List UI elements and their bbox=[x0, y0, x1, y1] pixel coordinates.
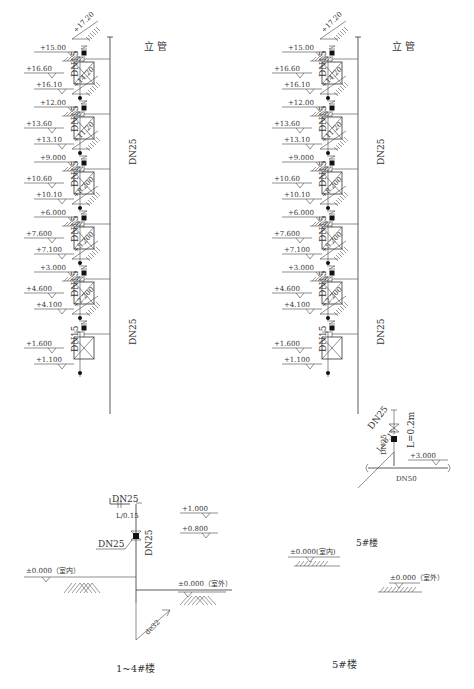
building-title: 1~4#楼 bbox=[116, 662, 155, 674]
lower-elevation: +7.100 bbox=[36, 246, 62, 254]
riser-label: 立 管 bbox=[392, 40, 415, 52]
floor-branch: +2.200DN15+1.600+1.100 bbox=[24, 285, 110, 377]
upper-elevation: +4.600 bbox=[26, 285, 52, 293]
upper-elevation: +13.60 bbox=[26, 120, 52, 128]
elevation-triangle-icon bbox=[306, 254, 314, 259]
left-base-assembly: DN25L/0.15DN25DN25+1.000+0.800±0.000（室内）… bbox=[24, 494, 232, 674]
valve-icon bbox=[329, 266, 335, 276]
upper-elevation: +7.600 bbox=[274, 230, 300, 238]
valve-icon bbox=[81, 321, 87, 331]
valve-icon bbox=[81, 156, 87, 166]
upper-elevation: +10.60 bbox=[26, 175, 52, 183]
elevation-triangle-icon bbox=[296, 238, 304, 243]
elevation-triangle-icon bbox=[58, 144, 66, 149]
elevation-triangle-icon bbox=[296, 293, 304, 298]
slab-elevation: +12.00 bbox=[40, 99, 66, 107]
pipe-end-icon bbox=[78, 151, 82, 155]
slab-elevation: +15.00 bbox=[40, 44, 66, 52]
pipe-end-icon bbox=[78, 261, 82, 265]
upper-elevation: +1.600 bbox=[274, 340, 300, 348]
elevation-triangle-icon bbox=[58, 364, 66, 369]
indoor-ground-label: ±0.000(室内) bbox=[290, 547, 336, 556]
slab-elevation: +3.000 bbox=[40, 264, 66, 272]
valve-icon bbox=[329, 156, 335, 166]
slab-elevation: +15.00 bbox=[288, 44, 314, 52]
upper-elevation: +16.60 bbox=[26, 65, 52, 73]
branch-dn-label: DN15 bbox=[318, 160, 328, 187]
pipe-end-icon bbox=[326, 206, 330, 210]
pipe-end-icon bbox=[326, 371, 330, 375]
branch-dn-label: DN15 bbox=[318, 325, 328, 352]
dn-label: DN25 bbox=[112, 494, 139, 504]
pipe-end-icon bbox=[78, 316, 82, 320]
elevation-triangle-icon bbox=[306, 144, 314, 149]
elevation-triangle-icon bbox=[296, 348, 304, 353]
branch-dn-label: DN15 bbox=[70, 50, 80, 77]
elevation-triangle-icon bbox=[306, 364, 314, 369]
lower-elevation: +16.10 bbox=[36, 81, 62, 89]
valve-icon bbox=[329, 211, 335, 221]
left-riser-system: 立 管DN25DN25+17.20DN15+16.60+16.10+15.00+… bbox=[24, 10, 167, 414]
elevation-triangle-icon bbox=[42, 577, 50, 582]
floor-branch: +2.200DN15+1.600+1.100 bbox=[272, 285, 358, 377]
upper-elevation: +13.60 bbox=[274, 120, 300, 128]
elevation-triangle-icon bbox=[306, 89, 314, 94]
pipe-end-icon bbox=[78, 371, 82, 375]
building-title: 5#楼 bbox=[332, 658, 357, 670]
upper-elevation: +10.60 bbox=[274, 175, 300, 183]
lower-elevation: +1.100 bbox=[284, 356, 310, 364]
valve-icon bbox=[329, 101, 335, 111]
vertical-dn-label: DN25 bbox=[144, 529, 154, 556]
floor-branch: +11.20DN15+10.60+10.10+9.000 bbox=[272, 120, 358, 212]
elevation-1: +1.000 bbox=[182, 505, 208, 513]
branch-dn-label: DN15 bbox=[318, 105, 328, 132]
lower-elevation: +13.10 bbox=[284, 136, 310, 144]
elevation-triangle-icon bbox=[306, 557, 314, 562]
elevation-triangle-icon bbox=[48, 128, 56, 133]
elevation-triangle-icon bbox=[202, 513, 210, 518]
elevation-triangle-icon bbox=[48, 293, 56, 298]
upper-elevation: +1.600 bbox=[26, 340, 52, 348]
floor-branch: +14.20DN15+13.60+13.10+12.00 bbox=[272, 65, 358, 157]
lower-elevation: +16.10 bbox=[284, 81, 310, 89]
elevation-triangle-icon bbox=[58, 254, 66, 259]
elevation-triangle-icon bbox=[296, 73, 304, 78]
lower-elevation: +4.100 bbox=[36, 301, 62, 309]
branch-dn-label: DN15 bbox=[70, 325, 80, 352]
branch-dn-label: DN15 bbox=[70, 215, 80, 242]
floor-branch: +14.20DN15+13.60+13.10+12.00 bbox=[24, 65, 110, 157]
valve-dn-label: DN25 bbox=[380, 434, 388, 455]
valve-dn-label: DN25 bbox=[98, 539, 125, 549]
slab-elevation: +12.00 bbox=[288, 99, 314, 107]
valve-elevation-tag: +17.20 bbox=[72, 10, 100, 41]
lower-elevation: +1.100 bbox=[36, 356, 62, 364]
riser-dn-label: DN25 bbox=[376, 138, 386, 165]
pipe-end-icon bbox=[326, 96, 330, 100]
outdoor-ground-label: ±0.000（室外） bbox=[390, 573, 444, 582]
riser-diagram: 立 管DN25DN25+17.20DN15+16.60+16.10+15.00+… bbox=[0, 0, 474, 689]
pipe-end-icon bbox=[78, 206, 82, 210]
elevation-triangle-icon bbox=[306, 199, 314, 204]
pipe-end-icon bbox=[326, 151, 330, 155]
elevation-triangle-icon bbox=[432, 460, 440, 465]
main-elevation: +3.000 bbox=[410, 452, 436, 460]
elevation-triangle-icon bbox=[58, 89, 66, 94]
elevation-triangle-icon bbox=[296, 128, 304, 133]
elevation-2: +0.800 bbox=[182, 525, 208, 533]
elevation-triangle-icon bbox=[202, 533, 210, 538]
slab-elevation: +6.000 bbox=[288, 209, 314, 217]
riser-dn-label: DN25 bbox=[128, 318, 138, 345]
lower-elevation: +10.10 bbox=[36, 191, 62, 199]
valve-icon bbox=[329, 46, 335, 56]
lower-elevation: +13.10 bbox=[36, 136, 62, 144]
pipe-end-icon bbox=[78, 96, 82, 100]
pipe-end-icon bbox=[326, 261, 330, 265]
valve-icon bbox=[81, 46, 87, 56]
valve-icon bbox=[81, 266, 87, 276]
slab-elevation: +9.000 bbox=[40, 154, 66, 162]
slab-elevation: +6.000 bbox=[40, 209, 66, 217]
branch-dn-label: DN15 bbox=[318, 215, 328, 242]
main-dn-label: DN50 bbox=[396, 475, 417, 483]
elevation-triangle-icon bbox=[306, 309, 314, 314]
right-base-assembly: DN25L=0.15DN25L=0.2mDN50+3.000±0.000(室内)… bbox=[288, 404, 450, 670]
